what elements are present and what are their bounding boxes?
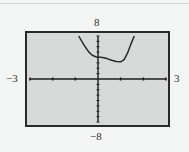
graph-screen	[0, 0, 189, 152]
